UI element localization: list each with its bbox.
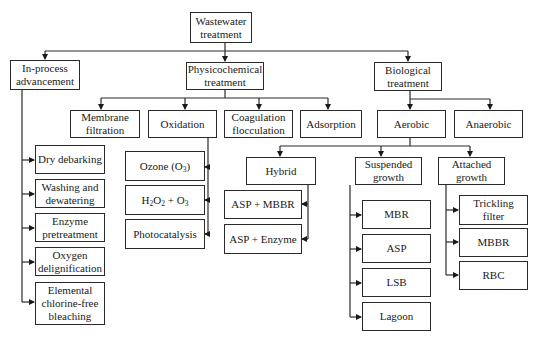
node-oxygen-delignification: Oxygendelignification [35,247,105,276]
node-label: filtration [81,124,129,137]
node-label: flocculation [232,124,286,137]
node-label: pretreatment [42,228,98,241]
node-hybrid: Hybrid [246,157,316,185]
node-in-process-advancement: In-processadvancement [10,60,80,90]
node-label: growth [452,171,492,184]
node-label: Membrane [81,111,129,124]
node-label: bleaching [42,310,99,323]
node-wastewater-treatment: Wastewatertreatment [190,12,252,43]
node-anaerobic: Anaerobic [454,110,523,138]
node-label: Physicochemical [188,63,263,76]
node-label: Dry debarking [38,153,102,166]
node-coagulation-flocculation: Coagulationflocculation [224,110,293,138]
node-label: treatment [188,76,263,89]
node-mbr: MBR [362,200,431,229]
node-label: Biological [385,64,431,77]
node-label: LSB [386,276,406,289]
node-label: Attached [452,158,492,171]
node-label: Washing and [42,181,99,194]
node-washing-dewatering: Washing anddewatering [35,179,105,208]
subscript: 3 [185,199,189,208]
node-asp-mbbr: ASP + MBBR [224,190,302,219]
node-label: ASP [386,242,406,255]
node-label: Enzyme [42,215,98,228]
node-trickling-filter: Tricklingfilter [459,195,528,225]
node-label: Lagoon [380,310,414,323]
node-label: MBBR [478,236,510,249]
node-label: ASP + Enzyme [229,233,297,246]
node-label: Aerobic [394,118,429,131]
node-label: filter [473,210,514,223]
node-label: RBC [482,269,504,282]
node-oxidation: Oxidation [148,110,217,138]
node-label: Photocatalysis [133,228,197,241]
node-photocatalysis: Photocatalysis [125,219,205,249]
node-label: Wastewater [195,15,246,28]
node-label: + O [165,194,185,206]
node-adsorption: Adsorption [300,110,362,138]
node-rbc: RBC [459,261,528,290]
node-suspended-growth: Suspendedgrowth [355,157,422,185]
node-label: treatment [195,28,246,41]
node-label: Adsorption [306,118,356,131]
node-label: delignification [38,262,102,275]
node-physicochemical-treatment: Physicochemicaltreatment [186,62,264,90]
node-membrane-filtration: Membranefiltration [70,110,140,138]
node-lsb: LSB [362,268,431,297]
wastewater-treatment-diagram: Wastewatertreatment In-processadvancemen… [0,0,541,345]
node-label: ASP + MBBR [231,198,294,211]
node-attached-growth: Attachedgrowth [438,157,505,185]
node-label: MBR [384,208,408,221]
node-label: Oxygen [38,249,102,262]
node-label: growth [365,171,413,184]
node-label: Elemental [42,284,99,297]
node-lagoon: Lagoon [362,302,431,331]
node-label: Anaerobic [466,118,512,131]
node-label: ) [187,160,191,172]
node-elemental-chlorine-free-bleaching: Elementalchlorine-freebleaching [35,282,105,325]
node-asp-enzyme: ASP + Enzyme [224,224,302,254]
node-ozone: Ozone (O3) [125,151,205,181]
node-h2o2-o3: H2O2 + O3 [125,185,205,215]
node-label: chlorine-free [42,297,99,310]
node-dry-debarking: Dry debarking [35,145,105,174]
node-label: advancement [16,75,74,88]
node-label: Coagulation [232,111,286,124]
node-asp: ASP [362,234,431,263]
node-label: H [142,194,150,206]
node-label: treatment [385,77,431,90]
node-label: Ozone (O [140,160,183,172]
node-label: Trickling [473,197,514,210]
node-mbbr: MBBR [459,228,528,257]
node-label: Suspended [365,158,413,171]
node-enzyme-pretreatment: Enzymepretreatment [35,213,105,242]
node-biological-treatment: Biologicaltreatment [374,62,442,91]
node-label: Oxidation [161,118,205,131]
node-aerobic: Aerobic [377,110,446,138]
node-label: dewatering [42,194,99,207]
node-label: In-process [16,62,74,75]
node-label: Hybrid [265,165,296,178]
